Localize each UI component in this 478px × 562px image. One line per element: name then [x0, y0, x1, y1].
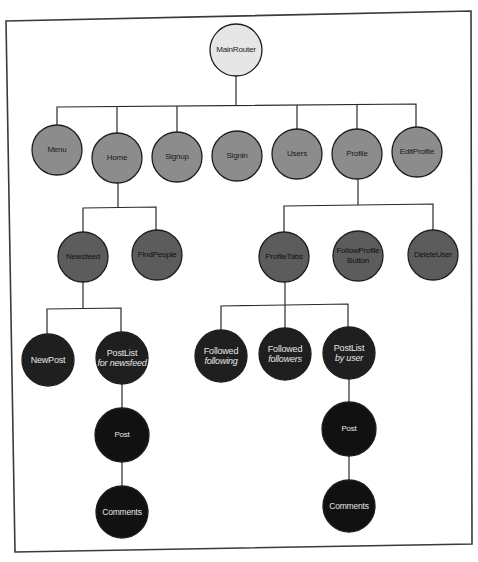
label-edit-profile: EditProfile — [400, 147, 434, 157]
label-delete-user: DeleteUser — [414, 250, 452, 260]
label-followed-following: Followed following — [204, 346, 238, 366]
label-comments-b: Comments — [329, 501, 369, 511]
label-signup: Signup — [165, 152, 189, 162]
label-followed-followers-sub: followers — [268, 354, 302, 364]
label-newsfeed: Newsfeed — [66, 252, 100, 262]
label-follow-profile-line2: Button — [336, 256, 379, 266]
label-profile-tabs: ProfileTabs — [265, 252, 302, 262]
label-signin: Signin — [226, 151, 247, 161]
label-post-a: Post — [114, 430, 129, 440]
label-postlist-user-title: PostList — [334, 343, 364, 353]
label-follow-profile-button: FollowProfile Button — [336, 246, 379, 266]
label-postlist-newsfeed-sub: for newsfeed — [97, 358, 146, 368]
label-menu: Menu — [47, 145, 66, 155]
label-new-post: NewPost — [31, 355, 66, 365]
label-postlist-user-sub: by user — [334, 353, 364, 363]
label-main-router: MainRouter — [216, 45, 255, 55]
label-comments-a: Comments — [102, 507, 142, 517]
label-profile: Profile — [346, 149, 367, 159]
label-follow-profile-line1: FollowProfile — [336, 246, 379, 256]
label-find-people: FindPeople — [138, 250, 176, 260]
label-followed-followers-title: Followed — [268, 344, 302, 354]
label-postlist-user: PostList by user — [334, 343, 364, 363]
label-postlist-newsfeed: PostList for newsfeed — [97, 348, 146, 368]
label-post-b: Post — [341, 424, 356, 434]
label-postlist-newsfeed-title: PostList — [97, 348, 146, 358]
label-followed-following-sub: following — [204, 356, 238, 366]
component-tree-diagram — [0, 0, 478, 562]
label-home: Home — [107, 153, 128, 163]
label-users: Users — [287, 149, 307, 159]
label-followed-followers: Followed followers — [268, 344, 302, 364]
label-followed-following-title: Followed — [204, 346, 238, 356]
